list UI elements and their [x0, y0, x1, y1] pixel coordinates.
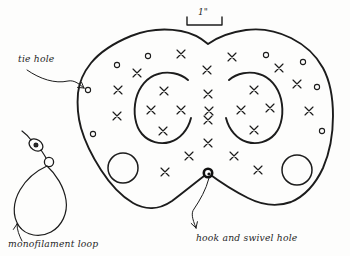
x-mark: [177, 50, 185, 58]
tie-hole-circle: [319, 128, 324, 133]
scale-bar-line: [187, 17, 222, 25]
tie-hole-leader: [27, 70, 84, 88]
tie-hole-label: tie hole: [18, 53, 55, 64]
tie-hole-circle: [85, 87, 90, 92]
x-mark: [133, 69, 141, 77]
monofilament-rig-group: [14, 131, 66, 235]
hook-and-swivel-hole-label: hook and swivel hole: [196, 232, 298, 243]
tie-hole-circle: [145, 53, 150, 58]
x-mark: [254, 166, 262, 174]
x-mark: [230, 152, 238, 160]
hook-swivel-hole-group: [204, 169, 212, 177]
x-mark: [147, 106, 155, 114]
x-mark: [160, 87, 168, 95]
inner-arcs-group: [135, 73, 283, 143]
x-mark: [204, 139, 212, 147]
x-mark: [293, 80, 301, 88]
x-mark: [114, 86, 122, 94]
tie-hole-circle: [90, 131, 95, 136]
x-mark: [250, 86, 258, 94]
x-mark: [266, 104, 274, 112]
x-mark: [237, 106, 245, 114]
x-mark: [203, 66, 211, 74]
right-large-hole: [282, 155, 312, 185]
swivel-to-ring-line: [41, 150, 46, 158]
mono-tag-line: [22, 131, 31, 140]
leader-lines-group: [13, 70, 209, 241]
split-ring: [44, 157, 53, 166]
left-large-hole: [108, 153, 138, 183]
hook-swivel-leader: [192, 178, 209, 228]
x-mark: [305, 107, 313, 115]
x-mark: [113, 112, 121, 120]
x-mark: [205, 107, 213, 115]
monofilament-loop: [14, 166, 66, 235]
monofilament-loop-label: monofilament loop: [8, 238, 98, 249]
x-mark: [159, 127, 167, 135]
x-mark: [275, 64, 283, 72]
tie-hole-circle: [114, 62, 119, 67]
tie-holes-group: [85, 52, 324, 136]
tie-hole-circle: [314, 84, 319, 89]
tie-hole-circle: [263, 52, 268, 57]
scale-bar-group: 1": [187, 7, 222, 25]
tie-hole-circle: [300, 59, 305, 64]
labels-group: tie hole monofilament loop hook and swiv…: [8, 53, 298, 249]
x-mark: [185, 152, 193, 160]
swivel-bead-eye: [34, 143, 38, 147]
x-mark: [250, 126, 258, 134]
scale-bar-label: 1": [198, 7, 208, 17]
x-mark: [228, 53, 236, 61]
x-mark: [161, 168, 169, 176]
x-mark: [204, 116, 212, 124]
hook-and-swivel-hole-center: [207, 172, 210, 175]
right-inner-arc: [226, 73, 282, 143]
x-mark: [204, 90, 212, 98]
x-mark: [177, 106, 185, 114]
sketch-canvas: 1": [0, 0, 350, 256]
sketch-svg: 1": [0, 0, 350, 256]
